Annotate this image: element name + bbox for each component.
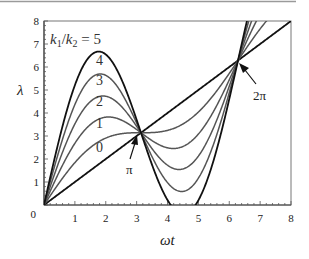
y-tick-label: 4: [34, 107, 40, 119]
curve-label-0: 0: [96, 140, 103, 155]
y-tick-label: 8: [34, 15, 40, 27]
x-tick-label: 4: [165, 212, 171, 224]
pi-arrow-shaft: [130, 143, 135, 159]
x-tick-label: 5: [196, 212, 202, 224]
y-tick-label: 0: [31, 208, 37, 220]
x-axis-label: ωt: [160, 232, 176, 248]
curve-label-3: 3: [96, 73, 103, 88]
x-tick-label: 3: [134, 212, 140, 224]
y-tick-label: 3: [34, 130, 40, 142]
x-tick-label: 7: [257, 212, 263, 224]
y-tick-label: 7: [34, 38, 40, 50]
two-pi-arrow-shaft: [245, 70, 256, 84]
x-tick-label: 1: [72, 212, 78, 224]
curve-labels: 01234: [96, 53, 103, 155]
x-tick-label: 2: [103, 212, 109, 224]
pi-label: π: [126, 162, 133, 177]
x-tick-label: 6: [227, 212, 233, 224]
y-tick-label: 6: [34, 61, 40, 73]
two-pi-annotation: 2π: [239, 63, 267, 103]
y-axis-label: λ: [16, 82, 24, 98]
pi-annotation: π: [126, 135, 138, 177]
two-pi-arrow-head-icon: [239, 63, 249, 73]
y-tick-label: 2: [34, 153, 40, 165]
y-tick-label: 5: [34, 84, 40, 96]
x-tick-label: 8: [288, 212, 294, 224]
y-tick-label: 1: [34, 176, 40, 188]
chart-figure: 12345678012345678 01234 k1/k2 = 5 π 2π λ…: [0, 0, 309, 259]
two-pi-label: 2π: [253, 88, 267, 103]
curve-label-2: 2: [96, 94, 103, 109]
ratio-label: k1/k2 = 5: [50, 31, 101, 49]
curve-label-4: 4: [96, 53, 103, 68]
curve-label-1: 1: [96, 116, 103, 131]
